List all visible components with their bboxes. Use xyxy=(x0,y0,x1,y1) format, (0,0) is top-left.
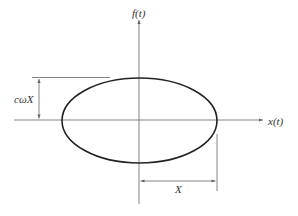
vertical-dimension-label: cωX xyxy=(14,94,33,105)
x-axis-label: x(t) xyxy=(268,116,283,127)
diagram-canvas: f(t) x(t) cωX X xyxy=(0,0,298,216)
horizontal-dimension-label: X xyxy=(175,184,182,195)
diagram-svg xyxy=(0,0,298,216)
response-ellipse xyxy=(62,78,217,163)
y-axis-label: f(t) xyxy=(132,8,145,19)
